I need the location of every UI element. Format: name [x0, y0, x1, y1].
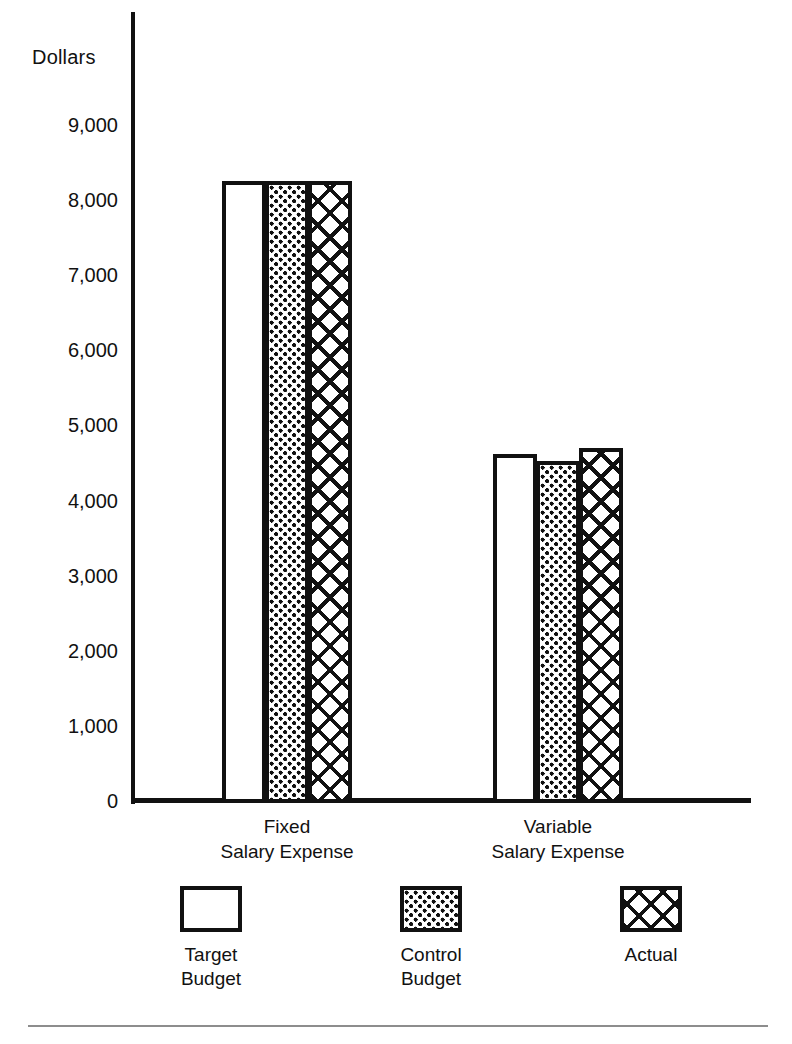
page-bottom-rule [28, 1025, 768, 1027]
bar [265, 181, 309, 803]
chart-legend: TargetBudgetControlBudgetActual [131, 886, 751, 1006]
bar [493, 454, 537, 803]
legend-swatch [180, 886, 242, 932]
category-label-line: Fixed [157, 814, 417, 839]
category-label-line: Salary Expense [428, 839, 688, 864]
legend-label: TargetBudget [131, 943, 291, 991]
x-axis-category-label: VariableSalary Expense [428, 814, 688, 864]
category-label-line: Salary Expense [157, 839, 417, 864]
legend-label: Actual [571, 943, 731, 967]
legend-item: TargetBudget [131, 886, 291, 991]
legend-label: ControlBudget [351, 943, 511, 991]
bar [579, 448, 623, 803]
legend-label-line: Control [351, 943, 511, 967]
category-label-line: Variable [428, 814, 688, 839]
bar [222, 181, 266, 803]
legend-label-line: Target [131, 943, 291, 967]
legend-swatch [620, 886, 682, 932]
legend-swatch [400, 886, 462, 932]
legend-label-line: Actual [571, 943, 731, 967]
legend-item: Actual [571, 886, 731, 967]
legend-label-line: Budget [351, 967, 511, 991]
bar [536, 461, 580, 803]
bar [308, 181, 352, 803]
bar-chart: Dollars 9,0008,0007,0006,0005,0004,0003,… [0, 0, 792, 1044]
legend-label-line: Budget [131, 967, 291, 991]
x-axis-category-label: FixedSalary Expense [157, 814, 417, 864]
legend-item: ControlBudget [351, 886, 511, 991]
